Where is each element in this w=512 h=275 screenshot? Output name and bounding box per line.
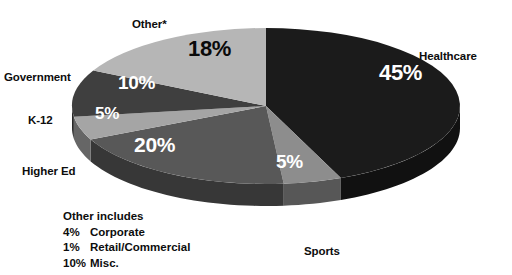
footnote-row: 1%Retail/Commercial	[63, 240, 190, 256]
footnote-row-pct: 4%	[63, 225, 90, 241]
slice-value-sports: 5%	[276, 152, 303, 171]
footnote-row-name: Corporate	[90, 226, 145, 238]
slice-value-healthcare: 45%	[379, 62, 422, 84]
slice-value-k12: 5%	[95, 105, 119, 122]
slice-label-government: Government	[4, 72, 71, 84]
slice-value-higher-ed: 20%	[134, 134, 175, 155]
slice-value-other: 18%	[188, 38, 231, 60]
footnote-block: Other includes 4%Corporate 1%Retail/Comm…	[63, 209, 190, 271]
pie-chart: Other* Government K-12 Higher Ed Healthc…	[0, 0, 512, 275]
footnote-row-pct: 10%	[63, 256, 90, 272]
slice-label-sports: Sports	[304, 246, 340, 258]
slice-label-healthcare: Healthcare	[419, 51, 477, 63]
slice-label-k12: K-12	[28, 115, 53, 127]
slice-label-higher-ed: Higher Ed	[22, 166, 75, 178]
footnote-row-pct: 1%	[63, 240, 90, 256]
footnote-title: Other includes	[63, 209, 190, 225]
slice-value-government: 10%	[118, 73, 155, 92]
slice-label-other: Other*	[132, 19, 167, 31]
footnote-row-name: Misc.	[90, 257, 119, 269]
footnote-row: 10%Misc.	[63, 256, 190, 272]
footnote-row-name: Retail/Commercial	[90, 241, 190, 253]
footnote-row: 4%Corporate	[63, 225, 190, 241]
